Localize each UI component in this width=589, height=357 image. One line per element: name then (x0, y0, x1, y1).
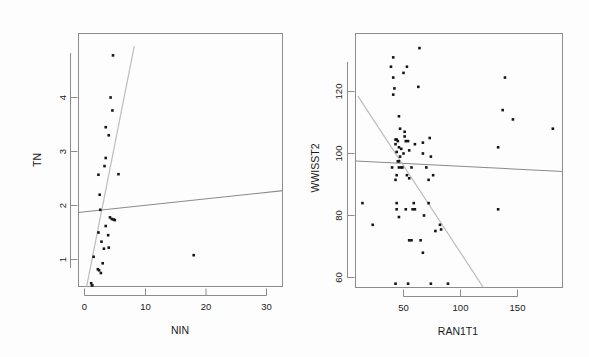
regression-lines-left (77, 46, 294, 297)
regression-line-shallow-fit (356, 161, 563, 172)
data-point (406, 65, 409, 68)
data-point (430, 282, 433, 285)
data-point (395, 202, 398, 205)
data-point (391, 166, 394, 169)
data-point (414, 208, 417, 211)
data-point (92, 256, 95, 259)
panel-left-canvas: 4 3 2 1 TN 0 10 20 30 NIN (0, 0, 294, 357)
x-axis-left: 0 10 20 30 NIN (82, 289, 272, 337)
data-point (497, 146, 500, 149)
y-axis-right: 120 100 80 60 WWISST2 (309, 62, 355, 283)
x-tick-label: 100 (453, 302, 469, 313)
data-point (90, 285, 93, 288)
scatter-plot-figure: 4 3 2 1 TN 0 10 20 30 NIN (0, 0, 589, 357)
data-point (98, 269, 101, 272)
data-point (291, 206, 294, 209)
x-tick-label: 150 (510, 302, 526, 313)
x-tick-label: 50 (398, 302, 409, 313)
y-axis-title: WWISST2 (309, 143, 321, 192)
data-point (410, 239, 413, 242)
data-point (99, 209, 102, 212)
data-point (427, 179, 430, 182)
data-point (402, 72, 405, 75)
data-point (403, 131, 406, 134)
regression-line-shallow-fit (77, 188, 294, 212)
data-point (422, 141, 425, 144)
data-point (399, 155, 402, 158)
data-point (97, 173, 100, 176)
data-point (103, 165, 106, 168)
data-point (398, 115, 401, 118)
data-point (394, 179, 397, 182)
y-tick-label: 1 (57, 257, 68, 262)
data-point (392, 93, 395, 96)
data-point (101, 262, 104, 265)
regression-line-steep-fit (85, 46, 135, 297)
data-point (404, 140, 407, 143)
data-point (398, 166, 401, 169)
data-point (109, 96, 112, 99)
data-point (412, 202, 415, 205)
data-point (192, 254, 195, 257)
y-axis-title: TN (31, 153, 43, 167)
data-point (425, 166, 428, 169)
data-point (361, 202, 364, 205)
data-point (395, 208, 398, 211)
data-point (100, 272, 103, 275)
data-point (392, 76, 395, 79)
data-point (117, 173, 120, 176)
data-point (395, 151, 398, 154)
data-point (428, 137, 431, 140)
data-point (423, 214, 426, 217)
x-tick-label: 0 (82, 301, 87, 312)
x-axis-title: NIN (171, 324, 189, 336)
data-point (440, 228, 443, 231)
data-point (107, 246, 110, 249)
data-point (406, 174, 409, 177)
data-point (390, 65, 393, 68)
data-point (399, 127, 402, 130)
x-tick-label: 20 (201, 301, 212, 312)
data-point (408, 239, 411, 242)
data-point (497, 208, 500, 211)
data-point (398, 146, 401, 149)
data-point (414, 143, 417, 146)
data-point (107, 234, 110, 237)
data-point (114, 219, 117, 222)
data-point (398, 160, 401, 163)
data-point (410, 166, 413, 169)
data-point (512, 118, 515, 121)
data-point (392, 56, 395, 59)
data-point (430, 155, 433, 158)
data-point (371, 224, 374, 227)
data-point (394, 282, 397, 285)
data-point (418, 47, 421, 50)
data-point (104, 157, 107, 160)
data-point (398, 216, 401, 219)
regression-line-steep-fit (358, 96, 489, 296)
data-point (400, 148, 403, 151)
panel-right-canvas: 120 100 80 60 WWISST2 50 100 150 RAN1T1 (295, 0, 589, 357)
panel-nin-tn: 4 3 2 1 TN 0 10 20 30 NIN (0, 0, 294, 357)
y-tick-label: 120 (333, 84, 344, 100)
data-point (407, 282, 410, 285)
data-point (104, 225, 107, 228)
data-point (100, 240, 103, 243)
data-point (104, 126, 107, 129)
x-tick-label: 10 (140, 301, 151, 312)
data-point (408, 177, 411, 180)
data-point (434, 230, 437, 233)
data-point (427, 202, 430, 205)
data-point (404, 208, 407, 211)
y-tick-label: 2 (57, 203, 68, 208)
data-points-left (90, 54, 294, 288)
data-point (552, 127, 555, 130)
data-point (501, 109, 504, 112)
y-tick-label: 60 (333, 272, 344, 283)
data-point (97, 231, 100, 234)
data-point (395, 174, 398, 177)
data-point (107, 134, 110, 137)
data-point (422, 152, 425, 155)
data-point (408, 149, 411, 152)
data-point (447, 282, 450, 285)
